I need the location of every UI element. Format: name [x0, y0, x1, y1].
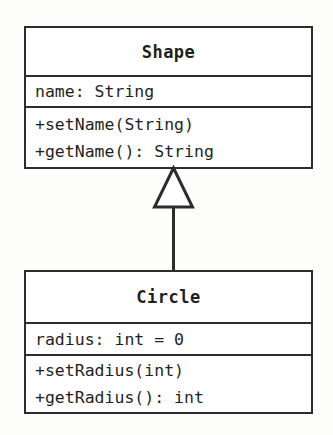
attributes-compartment-circle: radius: int = 0 — [26, 322, 311, 354]
attribute-item: radius: int = 0 — [35, 326, 311, 353]
operation-item: +getRadius(): int — [35, 384, 311, 411]
class-box-shape[interactable]: Shape name: String +setName(String) +get… — [24, 26, 313, 169]
operation-item: +getName(): String — [35, 138, 311, 165]
class-name-shape: Shape — [26, 28, 311, 75]
class-box-circle[interactable]: Circle radius: int = 0 +setRadius(int) +… — [24, 270, 313, 414]
operations-compartment-shape: +setName(String) +getName(): String — [26, 106, 311, 167]
uml-class-diagram: Shape name: String +setName(String) +get… — [0, 0, 333, 435]
attribute-item: name: String — [35, 78, 311, 105]
operation-item: +setRadius(int) — [35, 357, 311, 384]
attributes-compartment-shape: name: String — [26, 75, 311, 106]
class-name-circle: Circle — [26, 272, 311, 322]
operation-item: +setName(String) — [35, 111, 311, 138]
hollow-triangle-icon — [155, 168, 193, 207]
operations-compartment-circle: +setRadius(int) +getRadius(): int — [26, 354, 311, 412]
